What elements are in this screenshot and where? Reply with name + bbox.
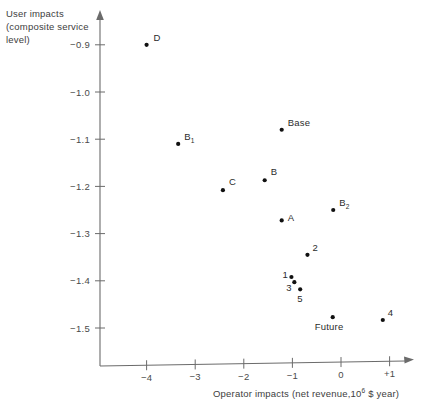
x-tick-label: −3 [189, 371, 200, 382]
data-point-label: Future [315, 321, 344, 332]
data-point[interactable]: Future [315, 315, 344, 332]
data-point-marker [176, 142, 180, 146]
data-point-label: 5 [297, 293, 302, 304]
y-tick-label: −0.9 [70, 39, 90, 50]
data-point-marker [305, 253, 309, 257]
data-point-group: DB1BaseCBB2A2135Future4 [145, 32, 394, 332]
x-axis-title: Operator impacts (net revenue,106 $ year… [213, 387, 399, 399]
data-point-label: 2 [312, 242, 317, 253]
x-axis-title-text: Operator impacts (net revenue,106 $ year… [213, 387, 399, 399]
x-tick-label: −1 [287, 370, 298, 381]
data-point[interactable]: B2 [331, 197, 350, 212]
data-point-label: Base [288, 117, 310, 128]
data-point-marker [280, 218, 284, 222]
data-point-marker [289, 275, 293, 279]
data-point-marker [331, 208, 335, 212]
x-axis-arrow-icon [404, 357, 414, 364]
x-tick-label: −2 [238, 371, 249, 382]
data-point-label: 4 [388, 307, 393, 318]
data-point[interactable]: A [280, 212, 295, 223]
x-tick-label: +1 [384, 368, 395, 379]
y-tick-label: −1.2 [70, 181, 90, 192]
data-point[interactable]: 2 [305, 242, 318, 257]
data-point[interactable]: Base [280, 117, 311, 132]
data-point[interactable]: D [145, 32, 161, 47]
data-point[interactable]: 3 [286, 280, 296, 293]
y-axis-title-line-1: User impacts [6, 8, 64, 19]
axes-group [96, 10, 414, 366]
data-point-marker [145, 43, 149, 47]
x-axis-line [100, 361, 405, 366]
plot-canvas: User impacts (composite service level) −… [0, 0, 425, 409]
data-point-marker [221, 188, 225, 192]
data-point-label: B1 [184, 131, 195, 144]
x-tick-label: −4 [141, 372, 152, 383]
data-point-marker [263, 178, 267, 182]
y-tick-label: −1.5 [70, 323, 90, 334]
data-point[interactable]: C [221, 176, 236, 192]
scatter-plot-figure: User impacts (composite service level) −… [0, 0, 425, 409]
x-axis-ticks: −4−3−2−10+1 [141, 356, 395, 383]
data-point-label: D [154, 32, 161, 43]
data-point-marker [292, 280, 296, 284]
data-point-label: C [229, 176, 236, 187]
data-point-label: B [271, 166, 278, 177]
data-point-label: 1 [282, 269, 287, 280]
x-tick-label: 0 [338, 369, 344, 380]
y-tick-label: −1.4 [70, 275, 90, 286]
y-tick-label: −1.3 [70, 228, 90, 239]
data-point-marker [331, 315, 335, 319]
y-tick-label: −1.0 [70, 87, 90, 98]
data-point[interactable]: 4 [381, 307, 394, 322]
data-point-label: A [288, 212, 295, 223]
data-point[interactable]: 1 [282, 269, 293, 280]
data-point-marker [381, 318, 385, 322]
data-point-marker [298, 287, 302, 291]
data-point[interactable]: B [263, 166, 278, 182]
data-point-label: 3 [286, 282, 291, 293]
data-point-label: B2 [339, 197, 350, 210]
y-axis-title-line-2: (composite service [6, 21, 89, 32]
data-point[interactable]: B1 [176, 131, 195, 146]
y-tick-label: −1.1 [70, 134, 90, 145]
data-point-marker [280, 128, 284, 132]
data-point[interactable]: 5 [297, 287, 302, 304]
y-axis-title-line-3: level) [6, 34, 30, 45]
y-axis-arrow-icon [96, 10, 104, 20]
